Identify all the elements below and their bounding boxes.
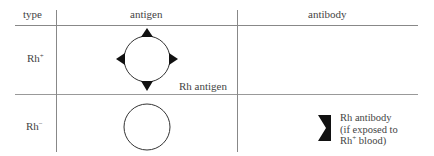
header-antigen: antigen [130, 8, 162, 20]
type-base: Rh [27, 52, 40, 64]
type-base: Rh [26, 120, 39, 132]
antigen-right-icon [169, 53, 178, 65]
antigen-top-icon [141, 28, 153, 37]
header-antibody: antibody [308, 8, 347, 20]
antibody-line-3: Rh+ blood) [340, 135, 398, 147]
rh-positive-cell-icon [116, 28, 178, 91]
header-type: type [23, 8, 42, 20]
type-sup: + [40, 52, 44, 60]
antibody-line-3-base: Rh [340, 135, 352, 146]
rh-antibody-icon [318, 115, 331, 141]
antibody-line-2: (if exposed to [340, 124, 398, 136]
rh-antibody-label: Rh antibody (if exposed to Rh+ blood) [340, 112, 398, 147]
rh-negative-cell-icon [124, 104, 170, 150]
antigen-bottom-icon [141, 81, 153, 91]
type-rh-negative: Rh− [26, 120, 43, 133]
type-sup: − [39, 120, 43, 128]
type-rh-positive: Rh+ [27, 52, 44, 65]
antibody-line-3-rest: blood) [356, 135, 386, 146]
rh-antigen-label: Rh antigen [179, 80, 227, 93]
antibody-line-1: Rh antibody [340, 112, 398, 124]
antigen-left-icon [116, 53, 125, 65]
